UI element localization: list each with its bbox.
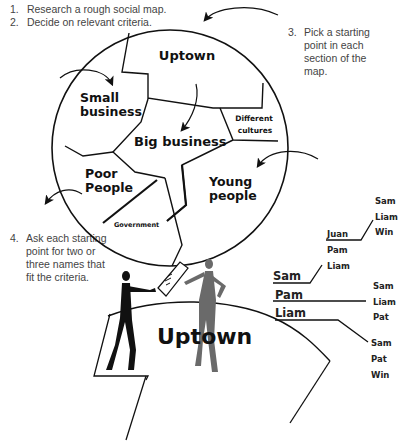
arrow-big-business (182, 84, 197, 130)
figure-right (184, 259, 226, 372)
section-big-business: Big business (134, 134, 227, 149)
sam-child-juan: Juan (326, 229, 348, 239)
juan-child-win: Win (375, 227, 393, 237)
section-small-business-line2: business (80, 104, 142, 119)
liam-child-win: Win (371, 370, 389, 380)
sam-child-liam: Liam (327, 261, 350, 271)
root-sam: Sam (273, 269, 301, 283)
section-young-people-line2: people (209, 188, 257, 203)
name-tree: Sam Pam Liam Juan Pam Liam Sam Liam Win … (273, 196, 398, 380)
section-young-people-line1: Young (208, 174, 252, 189)
illustration: Uptown (94, 259, 330, 440)
juan-child-liam: Liam (375, 212, 398, 222)
diagram-canvas: Uptown Small business Big business Diffe… (0, 0, 406, 444)
pam-child-sam: Sam (373, 281, 394, 291)
section-government: Government (114, 221, 159, 229)
section-different-cultures-line2: cultures (238, 126, 273, 135)
illustration-uptown-label: Uptown (157, 324, 252, 349)
section-different-cultures-line1: Different (235, 114, 273, 123)
section-small-business-line1: Small (80, 90, 119, 105)
paper-icon (158, 262, 188, 296)
arrow-small-business (60, 70, 112, 84)
pam-child-pat: Pat (373, 312, 389, 322)
root-pam: Pam (275, 288, 303, 302)
juan-child-sam: Sam (375, 196, 396, 206)
section-poor-people-line2: People (85, 180, 133, 195)
root-liam: Liam (275, 306, 306, 320)
arrow-top (205, 8, 278, 20)
liam-child-pat: Pat (371, 354, 387, 364)
social-map: Uptown Small business Big business Diffe… (52, 30, 288, 266)
section-poor-people-line1: Poor (85, 166, 118, 181)
liam-child-sam: Sam (371, 338, 392, 348)
section-uptown: Uptown (159, 48, 215, 63)
figure-left (106, 271, 156, 370)
pam-child-liam: Liam (373, 297, 396, 307)
sam-child-pam: Pam (327, 245, 348, 255)
